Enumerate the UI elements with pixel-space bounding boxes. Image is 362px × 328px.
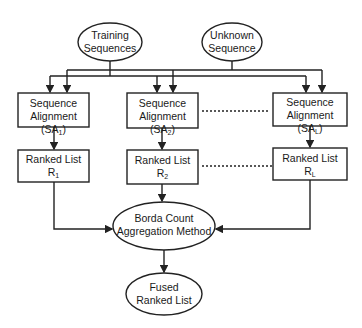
fused-ranked-list-label: Fused Ranked List bbox=[126, 281, 202, 307]
unknown-sequence-label: Unknown Sequence bbox=[200, 29, 264, 55]
ranked-list-label-2: Ranked List R2 bbox=[127, 154, 198, 180]
ranked-list-label-1: Ranked List R1 bbox=[18, 153, 89, 179]
alignment-label-L: Sequence Alignment (SAL) bbox=[273, 96, 347, 135]
ranked-list-label-L: Ranked List RL bbox=[273, 152, 347, 178]
alignment-label-1: Sequence Alignment (SA1) bbox=[18, 97, 89, 136]
training-sequences-label: Training Sequences bbox=[78, 29, 142, 55]
alignment-label-2: Sequence Alignment (SA2) bbox=[127, 97, 198, 136]
borda-count-label: Borda Count Aggregation Method bbox=[113, 212, 215, 238]
